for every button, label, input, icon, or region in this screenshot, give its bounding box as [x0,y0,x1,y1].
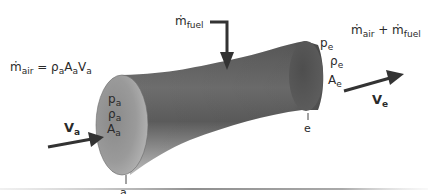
exit-mass-flow-label: ṁair + ṁfuel [351,23,421,39]
exit-pressure: pe [320,36,334,52]
exit-face [289,41,323,111]
baseline-divider [0,188,428,190]
mass-flow-diagram: ṁair = ρaAaVa Va pa ρa Aa a ṁfuel pe ρe … [0,0,428,194]
exit-velocity-arrow [344,70,404,91]
station-e-label: e [304,122,311,135]
engine-tube [122,41,323,175]
exit-area: Ae [328,73,342,89]
fuel-mass-flow-label: ṁfuel [175,14,204,30]
inlet-mass-flow-equation: ṁair = ρaAaVa [10,60,92,76]
inlet-velocity-label: Va [64,120,80,137]
exit-density: ρe [330,54,344,70]
exit-velocity-label: Ve [372,92,388,109]
inlet-face [96,75,148,175]
